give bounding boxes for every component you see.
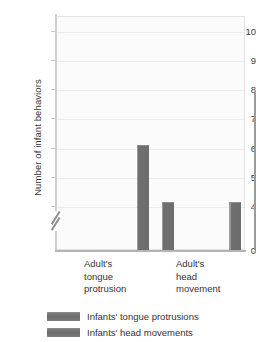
bar-group-1-series-0 [229, 202, 241, 250]
legend-swatch-icon-0 [47, 312, 80, 321]
category-label-adults-head-movement: Adult'sheadmovement [176, 258, 220, 296]
bar-group-0-series-0 [137, 145, 149, 250]
legend-item-0: Infants' tongue protrusions [47, 309, 252, 323]
category-label-line-2: protrusion [84, 283, 126, 296]
category-label-adults-tongue-protrusion: Adult'stongueprotrusion [84, 258, 126, 296]
chart-legend: Infants' tongue protrusionsInfants' head… [47, 309, 252, 341]
axis-break-icon [47, 210, 65, 232]
legend-swatch-icon-1 [47, 328, 80, 337]
category-label-line-1: tongue [84, 271, 126, 284]
y-axis-title: Number of infant behaviors [32, 38, 43, 238]
legend-item-1: Infants' head movements [47, 325, 252, 339]
bar-group-0-series-1 [162, 202, 174, 250]
bars-layer [56, 16, 245, 250]
bar-group-1-series-1 [254, 93, 256, 250]
category-label-line-2: movement [176, 283, 220, 296]
category-label-line-0: Adult's [84, 258, 126, 271]
category-label-line-0: Adult's [176, 258, 220, 271]
legend-label-0: Infants' tongue protrusions [87, 311, 199, 322]
bar-chart-figure: Number of infant behaviors 045678910 Adu… [0, 0, 256, 342]
legend-label-1: Infants' head movements [87, 327, 193, 338]
category-label-line-1: head [176, 271, 220, 284]
